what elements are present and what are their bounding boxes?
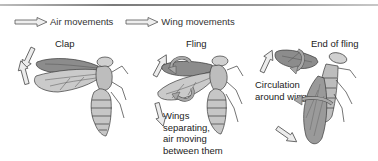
stage-fling	[151, 52, 243, 134]
air-arrow-down-right-icon	[274, 124, 299, 146]
air-arrow-down-icon	[152, 102, 168, 128]
wasp-flight-diagram	[0, 0, 378, 161]
stage-clap	[16, 46, 128, 136]
wing-lower	[34, 69, 102, 92]
stage-end-of-fling	[257, 48, 356, 146]
air-arrow-up-right-icon	[257, 48, 276, 74]
